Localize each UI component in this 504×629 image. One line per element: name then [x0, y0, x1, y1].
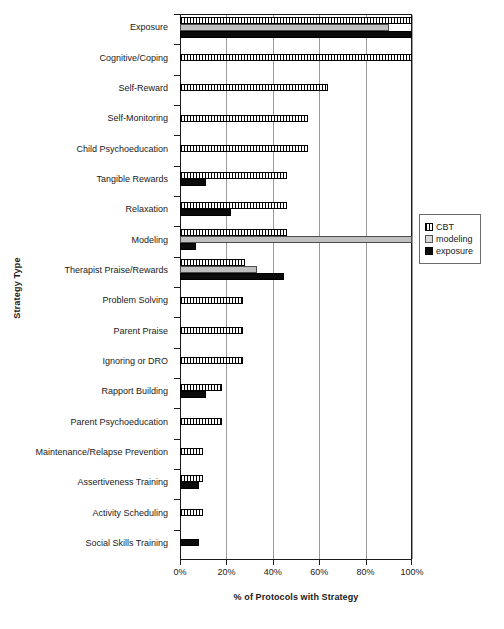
- bar-modeling: [180, 266, 257, 273]
- y-axis-label: Relaxation: [125, 204, 168, 214]
- bar-exposure: [180, 391, 206, 398]
- y-axis-label: Rapport Building: [101, 386, 168, 396]
- bar-exposure: [180, 179, 206, 186]
- x-axis-label: 0%: [160, 567, 200, 577]
- y-axis-tick-labels: ExposureCognitive/CopingSelf-RewardSelf-…: [0, 14, 176, 560]
- bar-cbt: [180, 327, 243, 334]
- bar-group: [180, 439, 412, 469]
- bar-group: [180, 499, 412, 529]
- bar-group: [180, 287, 412, 317]
- y-axis-label: Problem Solving: [102, 295, 168, 305]
- y-axis-label: Ignoring or DRO: [102, 356, 168, 366]
- x-axis-tick: [273, 560, 274, 565]
- bar-cbt: [180, 448, 203, 455]
- bar-cbt: [180, 475, 203, 482]
- bar-group: [180, 530, 412, 560]
- x-axis-tick: [180, 560, 181, 565]
- y-axis-label: Child Psychoeducation: [76, 144, 168, 154]
- x-axis-label: 20%: [206, 567, 246, 577]
- bar-modeling: [180, 236, 412, 243]
- bar-cbt: [180, 418, 222, 425]
- x-axis-tick: [319, 560, 320, 565]
- bar-cbt: [180, 54, 412, 61]
- bar-group: [180, 135, 412, 165]
- bar-cbt: [180, 297, 243, 304]
- legend-item-modeling[interactable]: modeling: [425, 234, 476, 244]
- bar-group: [180, 196, 412, 226]
- bar-cbt: [180, 229, 287, 236]
- legend-swatch-exposure: [425, 247, 433, 255]
- bar-cbt: [180, 357, 243, 364]
- y-axis-label: Assertiveness Training: [77, 477, 168, 487]
- y-axis-label: Maintenance/Relapse Prevention: [35, 447, 168, 457]
- bar-group: [180, 75, 412, 105]
- legend-item-cbt[interactable]: CBT: [425, 222, 476, 232]
- y-axis-label: Self-Monitoring: [107, 113, 168, 123]
- gridline-100: [412, 15, 413, 559]
- bar-cbt: [180, 115, 308, 122]
- x-axis-label: 80%: [346, 567, 386, 577]
- bar-cbt: [180, 145, 308, 152]
- x-axis-label: 100%: [392, 567, 432, 577]
- bar-exposure: [180, 209, 231, 216]
- y-axis-label: Parent Psychoeducation: [70, 417, 168, 427]
- bar-group: [180, 226, 412, 256]
- bar-cbt: [180, 17, 412, 24]
- bar-chart: Strategy Type ExposureCognitive/CopingSe…: [0, 0, 504, 629]
- bar-modeling: [180, 24, 389, 31]
- bar-cbt: [180, 84, 328, 91]
- legend: CBT modeling exposure: [419, 214, 481, 264]
- bar-group: [180, 14, 412, 44]
- y-axis-label: Self-Reward: [118, 83, 168, 93]
- x-axis-label: 40%: [253, 567, 293, 577]
- bar-group: [180, 166, 412, 196]
- bar-exposure: [180, 539, 199, 546]
- bar-cbt: [180, 509, 203, 516]
- x-axis-tick: [411, 560, 412, 565]
- x-axis-tick: [366, 560, 367, 565]
- bar-group: [180, 348, 412, 378]
- x-axis-tick: [226, 560, 227, 565]
- legend-label-modeling: modeling: [436, 234, 473, 244]
- bar-group: [180, 317, 412, 347]
- bar-group: [180, 378, 412, 408]
- x-axis-label: 60%: [299, 567, 339, 577]
- y-axis-label: Parent Praise: [113, 326, 168, 336]
- bar-exposure: [180, 31, 412, 38]
- legend-item-exposure[interactable]: exposure: [425, 246, 476, 256]
- y-axis-label: Therapist Praise/Rewards: [64, 265, 168, 275]
- bar-cbt: [180, 259, 245, 266]
- legend-label-cbt: CBT: [436, 222, 454, 232]
- bar-group: [180, 408, 412, 438]
- bar-exposure: [180, 273, 284, 280]
- y-axis-label: Social Skills Training: [85, 538, 168, 548]
- bar-cbt: [180, 384, 222, 391]
- legend-swatch-modeling: [425, 235, 433, 243]
- bar-group: [180, 105, 412, 135]
- y-axis-label: Cognitive/Coping: [99, 53, 168, 63]
- y-axis-label: Modeling: [131, 235, 168, 245]
- bar-cbt: [180, 172, 287, 179]
- bar-group: [180, 469, 412, 499]
- legend-label-exposure: exposure: [436, 246, 473, 256]
- x-axis-tick-labels: 0%20%40%60%80%100%: [180, 560, 412, 590]
- bar-group: [180, 44, 412, 74]
- legend-swatch-cbt: [425, 223, 433, 231]
- bar-exposure: [180, 482, 199, 489]
- y-axis-label: Exposure: [130, 22, 168, 32]
- y-axis-label: Activity Scheduling: [92, 508, 168, 518]
- bar-rows: [180, 14, 412, 560]
- y-axis-label: Tangible Rewards: [96, 174, 168, 184]
- bar-cbt: [180, 202, 287, 209]
- x-axis-title: % of Protocols with Strategy: [180, 592, 412, 602]
- bar-group: [180, 257, 412, 287]
- bar-exposure: [180, 243, 196, 250]
